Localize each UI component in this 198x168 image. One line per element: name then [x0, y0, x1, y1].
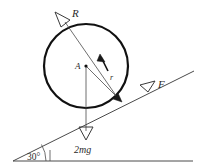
normal-reaction-line: [65, 22, 117, 97]
incline-line: [13, 71, 194, 161]
physics-diagram: R F A r 2mg 30°: [0, 0, 198, 168]
free-body-diagram-canvas: R F A r 2mg 30°: [0, 0, 198, 168]
label-incline-angle: 30°: [27, 152, 41, 162]
center-point-dot: [84, 64, 87, 67]
normal-reaction-arrowhead: [55, 12, 70, 27]
tension-arrowhead: [97, 54, 105, 62]
label-center-point: A: [74, 61, 81, 71]
label-radius: r: [110, 73, 114, 82]
friction-force-arrowhead: [140, 81, 155, 92]
label-normal-reaction: R: [71, 7, 79, 19]
label-weight: 2mg: [74, 144, 91, 155]
label-friction-force: F: [157, 78, 165, 90]
